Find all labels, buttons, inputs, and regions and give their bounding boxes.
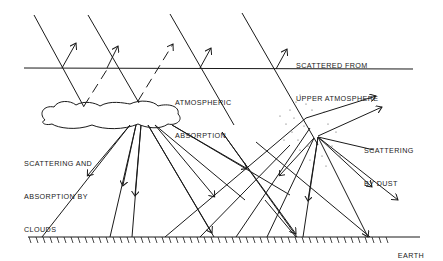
label-line: SCATTERED FROM bbox=[296, 60, 379, 71]
label-earth: EARTH bbox=[393, 239, 424, 261]
label-line: ABSORPTION BY bbox=[24, 191, 92, 202]
label-line: SCATTERING bbox=[364, 145, 414, 156]
reflect-arrow-4 bbox=[276, 49, 287, 69]
dust-scatter-ground-1 bbox=[318, 137, 368, 237]
label-line: EARTH bbox=[398, 251, 424, 260]
cloud-reflect-dashed-1 bbox=[84, 68, 108, 106]
label-line: BY DUST bbox=[364, 178, 414, 189]
ground-up-ray-2 bbox=[236, 128, 310, 237]
label-line: CLOUDS bbox=[24, 224, 92, 235]
label-dust: SCATTERING BY DUST bbox=[364, 123, 414, 200]
incoming-ray-2 bbox=[88, 15, 139, 103]
label-clouds: SCATTERING AND ABSORPTION BY CLOUDS bbox=[24, 136, 92, 246]
cloud-reflect-dashed-2 bbox=[138, 44, 173, 101]
long-ray-to-earth bbox=[256, 142, 370, 237]
reflect-arrow-1 bbox=[62, 43, 76, 68]
label-line: ABSORPTION bbox=[175, 130, 232, 141]
dust-scatter-ground-3 bbox=[280, 138, 314, 175]
reflect-arrow-3 bbox=[200, 48, 211, 68]
label-line: UPPER ATMOSPHERE bbox=[296, 93, 379, 104]
label-line: SCATTERING AND bbox=[24, 158, 92, 169]
incoming-ray-1 bbox=[34, 15, 84, 107]
label-atmospheric-absorption: ATMOSPHERIC ABSORPTION bbox=[175, 75, 232, 152]
ground-up-ray-3 bbox=[267, 138, 314, 237]
label-upper-atmosphere: SCATTERED FROM UPPER ATMOSPHERE bbox=[296, 38, 379, 115]
label-line: ATMOSPHERIC bbox=[175, 97, 232, 108]
cloud-shape bbox=[42, 101, 180, 129]
